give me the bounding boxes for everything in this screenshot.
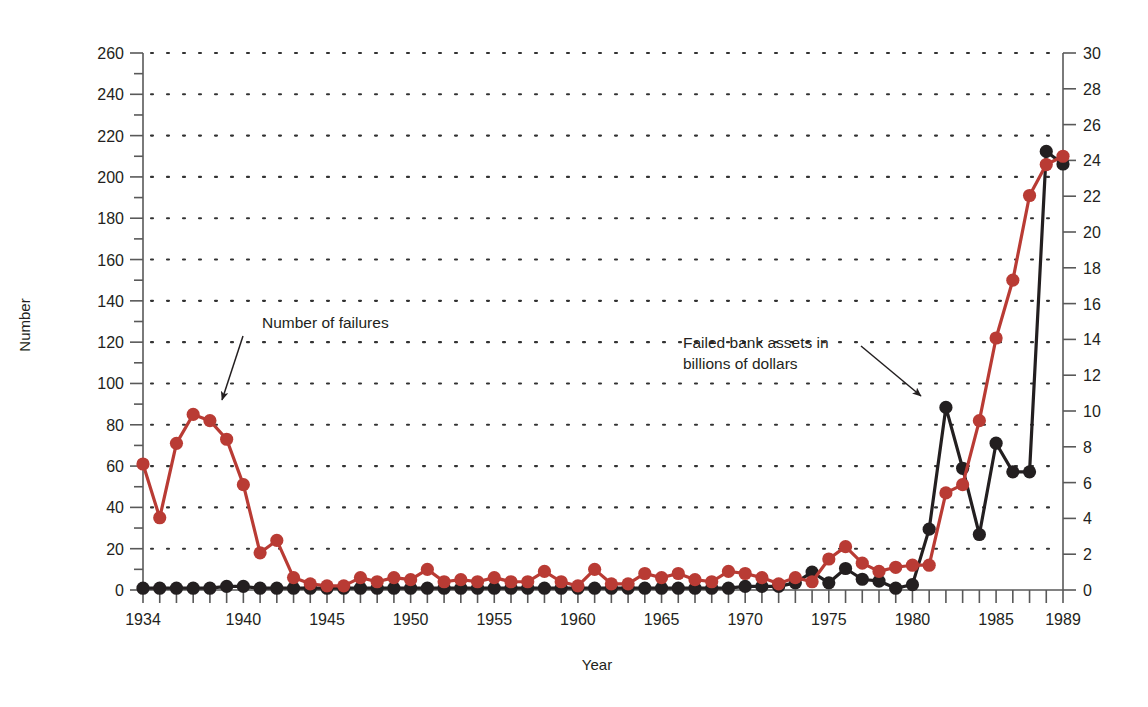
y-tick-label-left: 80 xyxy=(106,417,124,434)
data-point xyxy=(471,575,484,588)
chart-background xyxy=(0,0,1148,707)
data-point xyxy=(672,567,685,580)
y-tick-label-left: 200 xyxy=(97,169,124,186)
data-point xyxy=(722,565,735,578)
data-point xyxy=(203,414,216,427)
data-point xyxy=(872,565,885,578)
data-point xyxy=(538,582,551,595)
data-point xyxy=(270,582,283,595)
data-point xyxy=(973,414,986,427)
data-point xyxy=(655,571,668,584)
y-tick-label-left: 160 xyxy=(97,252,124,269)
data-point xyxy=(822,552,835,565)
data-point xyxy=(488,571,501,584)
data-point xyxy=(923,559,936,572)
data-point xyxy=(437,575,450,588)
data-point xyxy=(605,577,618,590)
data-point xyxy=(253,582,266,595)
x-tick-label: 1975 xyxy=(811,611,847,628)
data-point xyxy=(237,478,250,491)
data-point xyxy=(153,582,166,595)
bank-failures-line-chart: 020406080100120140160180200220240260 024… xyxy=(0,0,1148,707)
data-point xyxy=(454,573,467,586)
data-point xyxy=(939,401,952,414)
data-point xyxy=(187,582,200,595)
x-tick-label: 1960 xyxy=(560,611,596,628)
y-tick-label-right: 14 xyxy=(1083,331,1101,348)
x-tick-label: 1980 xyxy=(895,611,931,628)
data-point xyxy=(839,562,852,575)
annotation-label-number-of-failures: Number of failures xyxy=(262,314,389,331)
data-point xyxy=(170,437,183,450)
data-point xyxy=(705,575,718,588)
y-tick-label-right: 28 xyxy=(1083,81,1101,98)
data-point xyxy=(504,575,517,588)
y-tick-label-left: 220 xyxy=(97,128,124,145)
data-point xyxy=(304,577,317,590)
y-tick-label-right: 10 xyxy=(1083,403,1101,420)
data-point xyxy=(387,571,400,584)
y-tick-label-right: 0 xyxy=(1083,582,1092,599)
data-point xyxy=(136,457,149,470)
x-tick-label: 1965 xyxy=(644,611,680,628)
data-point xyxy=(220,433,233,446)
data-point xyxy=(739,567,752,580)
x-tick-label: 1934 xyxy=(125,611,161,628)
y-tick-label-right: 4 xyxy=(1083,510,1092,527)
data-point xyxy=(136,582,149,595)
y-tick-label-left: 140 xyxy=(97,293,124,310)
data-point xyxy=(270,534,283,547)
chart-canvas: 020406080100120140160180200220240260 024… xyxy=(0,0,1148,707)
data-point xyxy=(521,575,534,588)
data-point xyxy=(839,540,852,553)
data-point xyxy=(187,408,200,421)
x-tick-label: 1940 xyxy=(226,611,262,628)
x-axis-label: Year xyxy=(582,656,612,673)
y-tick-label-right: 20 xyxy=(1083,224,1101,241)
y-tick-label-left: 60 xyxy=(106,458,124,475)
y-tick-label-right: 12 xyxy=(1083,367,1101,384)
data-point xyxy=(856,557,869,570)
data-point xyxy=(621,577,634,590)
y-tick-label-left: 180 xyxy=(97,210,124,227)
data-point xyxy=(906,578,919,591)
data-point xyxy=(253,546,266,559)
y-tick-label-left: 260 xyxy=(97,45,124,62)
data-point xyxy=(822,576,835,589)
y-tick-label-left: 100 xyxy=(97,375,124,392)
data-point xyxy=(789,571,802,584)
annotation-line: billions of dollars xyxy=(683,355,798,372)
x-tick-label: 1989 xyxy=(1045,611,1081,628)
data-point xyxy=(906,559,919,572)
data-point xyxy=(170,582,183,595)
data-point xyxy=(571,579,584,592)
annotation-line: Failed bank assets in xyxy=(683,334,829,351)
data-point xyxy=(889,582,902,595)
data-point xyxy=(287,571,300,584)
data-point xyxy=(856,573,869,586)
y-tick-label-right: 16 xyxy=(1083,296,1101,313)
data-point xyxy=(320,579,333,592)
data-point xyxy=(638,582,651,595)
y-tick-label-right: 2 xyxy=(1083,546,1092,563)
data-point xyxy=(588,563,601,576)
data-point xyxy=(1023,465,1036,478)
data-point xyxy=(923,523,936,536)
y-tick-label-left: 240 xyxy=(97,86,124,103)
data-point xyxy=(1056,150,1069,163)
y-tick-label-left: 120 xyxy=(97,334,124,351)
y-tick-label-left: 40 xyxy=(106,499,124,516)
data-point xyxy=(989,331,1002,344)
data-point xyxy=(939,486,952,499)
y-tick-label-right: 6 xyxy=(1083,475,1092,492)
x-tick-label: 1945 xyxy=(309,611,345,628)
data-point xyxy=(588,582,601,595)
data-point xyxy=(688,573,701,586)
data-point xyxy=(371,575,384,588)
data-point xyxy=(203,582,216,595)
data-point xyxy=(421,582,434,595)
data-point xyxy=(739,580,752,593)
y-tick-label-right: 24 xyxy=(1083,152,1101,169)
data-point xyxy=(772,577,785,590)
data-point xyxy=(555,575,568,588)
